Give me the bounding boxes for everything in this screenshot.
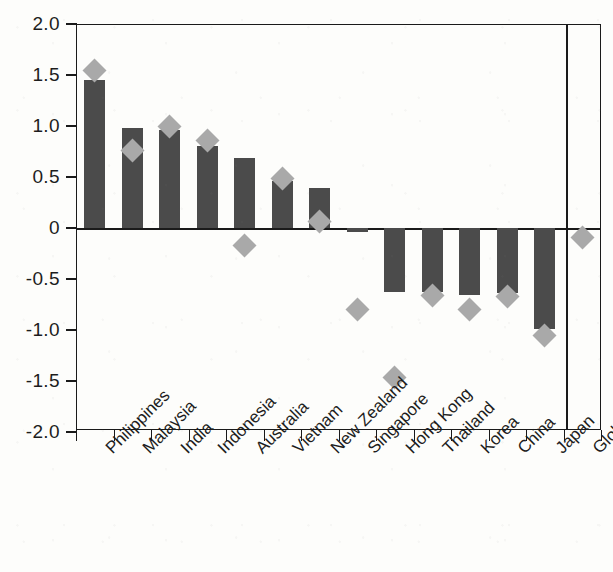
x-axis-label: Malaysia (139, 444, 153, 458)
x-tick-mark (564, 430, 565, 441)
y-tick-label: 2.0 (0, 13, 60, 35)
x-tick-mark (76, 430, 77, 441)
x-axis-label: New Zealand (327, 444, 341, 458)
x-axis-label: Indonesia (214, 444, 228, 458)
x-tick-mark (339, 430, 340, 441)
x-tick-mark (226, 430, 227, 441)
y-tick-label: -0.5 (0, 268, 60, 290)
plot-area (76, 24, 601, 430)
x-tick-mark (151, 430, 152, 441)
x-tick-mark (489, 430, 490, 441)
x-axis-label: Singapore (364, 444, 378, 458)
y-tick-label: -1.0 (0, 319, 60, 341)
y-tick-label: -2.0 (0, 421, 60, 443)
x-axis-label: Korea (477, 444, 491, 458)
x-axis-label: Global impact (589, 444, 603, 458)
x-axis-label: Vietnam (289, 444, 303, 458)
y-tick-mark (66, 431, 77, 433)
global-impact-separator (566, 24, 568, 430)
x-tick-mark (601, 430, 602, 441)
x-axis-label: Australia (252, 444, 266, 458)
x-axis-label: China (514, 444, 528, 458)
x-tick-mark (451, 430, 452, 441)
x-axis-label: Hong Kong (402, 444, 416, 458)
chart-root: 2.01.51.00.50-0.5-1.0-1.5-2.0 Philippine… (0, 0, 613, 572)
x-tick-mark (264, 430, 265, 441)
x-axis-label: Philippines (102, 444, 116, 458)
y-tick-label: 1.5 (0, 64, 60, 86)
y-tick-label: 1.0 (0, 115, 60, 137)
x-tick-mark (189, 430, 190, 441)
x-tick-mark (376, 430, 377, 441)
x-axis-label: Japan (552, 444, 566, 458)
y-tick-label: -1.5 (0, 370, 60, 392)
y-tick-label: 0 (0, 217, 60, 239)
y-tick-label: 0.5 (0, 166, 60, 188)
x-tick-mark (414, 430, 415, 441)
x-axis-label: India (177, 444, 191, 458)
x-tick-mark (114, 430, 115, 441)
zero-baseline (76, 228, 601, 230)
x-tick-mark (301, 430, 302, 441)
x-tick-mark (526, 430, 527, 441)
x-axis-label: Thailand (439, 444, 453, 458)
